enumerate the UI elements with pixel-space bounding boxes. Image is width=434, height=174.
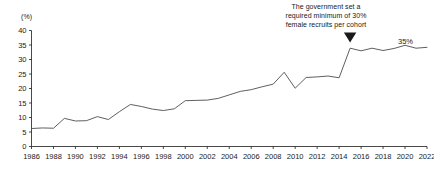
y-axis-tick-label: 10 — [18, 113, 26, 122]
x-axis-tick-label: 2014 — [331, 152, 348, 161]
x-axis-tick-label: 1994 — [111, 152, 128, 161]
x-axis-tick-label: 1998 — [155, 152, 172, 161]
y-axis-tick-label: 20 — [18, 84, 26, 93]
x-axis-ticks: 1986198819901992199419961998200020022004… — [23, 147, 434, 161]
x-axis-tick-label: 1988 — [45, 152, 62, 161]
y-axis-tick-label: 0 — [22, 142, 26, 151]
x-axis-tick-label: 2008 — [265, 152, 282, 161]
x-axis-tick-label: 2000 — [177, 152, 194, 161]
x-axis-tick-label: 2004 — [221, 152, 238, 161]
x-axis-tick-label: 2022 — [419, 152, 434, 161]
x-axis-group: 1986198819901992199419961998200020022004… — [23, 147, 434, 161]
x-axis-tick-label: 1990 — [67, 152, 84, 161]
y-axis-ticks: 0510152025303540 — [18, 26, 31, 151]
y-axis-group: 0510152025303540 — [18, 26, 31, 151]
x-axis-tick-label: 2016 — [353, 152, 370, 161]
x-axis-tick-label: 2020 — [397, 152, 414, 161]
x-axis-tick-label: 1996 — [133, 152, 150, 161]
y-axis-tick-label: 5 — [22, 128, 26, 137]
x-axis-tick-label: 2018 — [375, 152, 392, 161]
y-axis-tick-label: 30 — [18, 55, 26, 64]
x-axis-tick-label: 1986 — [23, 152, 40, 161]
chart-plot-area: 0510152025303540 19861988199019921994199… — [0, 0, 434, 174]
data-series-line — [32, 45, 428, 128]
x-axis-tick-label: 2010 — [287, 152, 304, 161]
down-triangle-icon — [344, 33, 356, 43]
x-axis-tick-label: 2012 — [309, 152, 326, 161]
y-axis-tick-label: 40 — [18, 26, 26, 35]
y-axis-tick-label: 25 — [18, 70, 26, 79]
chart-container: (%) The government set a required minimu… — [0, 0, 434, 174]
y-axis-tick-label: 35 — [18, 41, 26, 50]
x-axis-tick-label: 2006 — [243, 152, 260, 161]
x-axis-tick-label: 2002 — [199, 152, 216, 161]
x-axis-tick-label: 1992 — [89, 152, 106, 161]
y-axis-tick-label: 15 — [18, 99, 26, 108]
